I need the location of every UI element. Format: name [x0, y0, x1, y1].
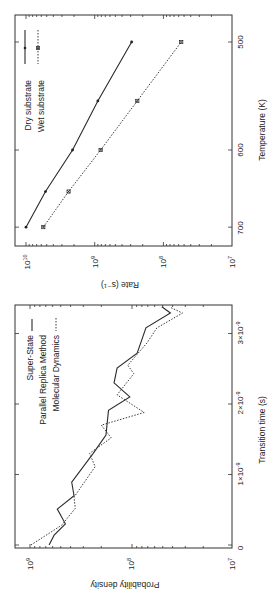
wet-substrate-line [43, 42, 181, 227]
density-chart: 109 108 107 Probability density 0 1×10-9… [15, 305, 267, 590]
time-tick-label-0: 0 [236, 545, 245, 550]
svg-text:109: 109 [25, 558, 35, 570]
svg-text:108: 108 [158, 256, 168, 268]
density-axis-label: Probability density [90, 580, 160, 590]
rate-plot-frame [15, 15, 232, 246]
dry-substrate-line [26, 42, 132, 227]
wet-data-point [67, 190, 70, 193]
density-tick-label-1e8: 108 [126, 558, 136, 570]
dry-data-point [25, 226, 28, 229]
wet-data-point [136, 99, 139, 102]
time-tick-label-2e-9: 2×10-9 [235, 392, 245, 415]
figure-svg: 1010 109 108 107 Rate (s⁻¹) 700 600 500 … [0, 0, 276, 613]
temperature-axis-label: Temperature (K) [257, 99, 267, 161]
legend-wet-substrate: Wet substrate [36, 80, 46, 133]
legend-dry-substrate: Dry substrate [23, 80, 33, 131]
svg-text:108: 108 [126, 558, 136, 570]
wet-data-point [42, 226, 45, 229]
super-state-prm-line [49, 307, 170, 545]
figure: 1010 109 108 107 Rate (s⁻¹) 700 600 500 … [0, 0, 276, 613]
dry-data-point [44, 190, 47, 193]
temp-tick-label-500: 500 [236, 35, 245, 49]
dry-data-point [130, 41, 133, 44]
svg-text:107: 107 [227, 256, 237, 268]
transition-time-axis-label: Transition time (s) [257, 396, 267, 464]
svg-text:3×10-9: 3×10-9 [235, 322, 245, 345]
svg-text:2×10-9: 2×10-9 [235, 392, 245, 415]
legend-molecular-dynamics: Molecular Dynamics [51, 335, 61, 412]
rate-series [25, 40, 183, 228]
dry-data-point [71, 149, 74, 152]
time-tick-label-1e-9: 1×10-9 [235, 463, 245, 486]
wet-data-point [180, 40, 183, 43]
svg-text:109: 109 [90, 256, 100, 268]
temp-tick-label-700: 700 [236, 221, 245, 235]
rate-tick-label-1e10: 1010 [22, 254, 32, 269]
svg-text:0: 0 [236, 545, 245, 550]
rate-tick-label-1e8: 108 [158, 256, 168, 268]
density-tick-label-1e7: 107 [227, 558, 237, 570]
legend-super-state: Super-State [25, 335, 35, 381]
rate-tick-label-1e9: 109 [90, 256, 100, 268]
legend-dry-marker [24, 47, 27, 50]
time-tick-label-3e-9: 3×10-9 [235, 322, 245, 345]
wet-data-point [99, 148, 102, 151]
svg-text:1×10-9: 1×10-9 [235, 463, 245, 486]
density-legend: Super-State Parallel Replica Method Mole… [25, 318, 61, 425]
rate-chart: 1010 109 108 107 Rate (s⁻¹) 700 600 500 … [15, 15, 267, 290]
rate-axis-label: Rate (s⁻¹) [101, 280, 139, 290]
rate-ticks [15, 15, 232, 246]
density-tick-label-1e9: 109 [25, 558, 35, 570]
svg-text:1010: 1010 [22, 254, 32, 269]
dry-data-point [96, 100, 99, 103]
temp-tick-label-600: 600 [236, 143, 245, 157]
svg-text:107: 107 [227, 558, 237, 570]
rate-tick-label-1e7: 107 [227, 256, 237, 268]
legend-parallel-replica: Parallel Replica Method [38, 335, 48, 425]
rate-legend: Dry substrate Wet substrate [23, 30, 46, 132]
